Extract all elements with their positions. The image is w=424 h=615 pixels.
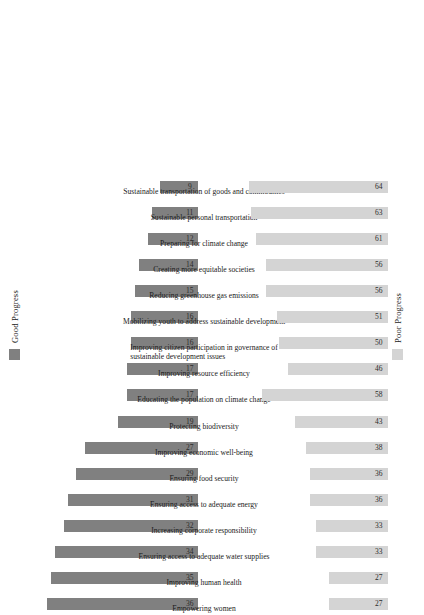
bar-value-label: 56: [375, 287, 383, 295]
good-progress-swatch: [9, 349, 20, 360]
bar-slot: 51: [232, 306, 388, 328]
bar-slot: 56: [232, 280, 388, 302]
bar-slot: 38: [232, 437, 388, 459]
bar-poor-7[interactable]: 43: [295, 416, 388, 428]
category-slot: Sustainable transportation of goods and …: [198, 176, 228, 198]
bar-poor-10[interactable]: 50: [279, 337, 388, 349]
bar-slot: 27: [232, 567, 388, 589]
category-slot: Ensuring access to adequate energy: [198, 489, 228, 511]
bar-value-label: 51: [375, 313, 383, 321]
category-slot: Reducing greenhouse gas emissions: [198, 280, 228, 302]
category-slot: Sustainable personal transportation: [198, 202, 228, 224]
bar-value-label: 56: [375, 261, 383, 269]
bar-slot: 43: [232, 411, 388, 433]
poor-progress-bar-row: 2727333336363843584650515656616364: [232, 0, 388, 615]
category-slot: Improving resource efficiency: [198, 359, 228, 381]
bar-value-label: 36: [375, 496, 383, 504]
bar-poor-4[interactable]: 36: [310, 494, 388, 506]
bar-slot: 33: [232, 541, 388, 563]
bar-value-label: 27: [375, 601, 383, 609]
bar-slot: 36: [232, 463, 388, 485]
bar-slot: 64: [232, 176, 388, 198]
category-slot: Creating more equitable societies: [198, 254, 228, 276]
bar-slot: 58: [232, 385, 388, 407]
bar-value-label: 46: [375, 366, 383, 374]
poor-progress-swatch: [392, 349, 403, 360]
bar-value-label: 61: [375, 235, 383, 243]
chart-figure: Good Progress 36353432312927191717161615…: [0, 0, 424, 615]
bar-poor-12[interactable]: 56: [266, 285, 388, 297]
bar-poor-6[interactable]: 38: [306, 442, 389, 454]
category-slot: Improving citizen participation in gover…: [198, 333, 228, 355]
bar-poor-11[interactable]: 51: [277, 311, 388, 323]
category-label-1: Improving human health: [166, 578, 241, 587]
bar-value-label: 38: [375, 444, 383, 452]
bar-poor-13[interactable]: 56: [266, 259, 388, 271]
category-label-line1: Improving human health: [166, 578, 241, 587]
poor-progress-panel: 2727333336363843584650515656616364: [232, 0, 388, 615]
category-label-0: Empowering women: [172, 604, 235, 613]
category-slot: Protecting biodiversity: [198, 411, 228, 433]
bar-value-label: 33: [375, 548, 383, 556]
bar-slot: 56: [232, 254, 388, 276]
bar-poor-0[interactable]: 27: [329, 598, 388, 610]
bar-poor-8[interactable]: 58: [262, 390, 388, 402]
bar-poor-3[interactable]: 33: [316, 520, 388, 532]
bar-poor-1[interactable]: 27: [329, 572, 388, 584]
bar-poor-15[interactable]: 63: [251, 207, 388, 219]
bar-slot: 46: [232, 359, 388, 381]
category-slot: Empowering women: [198, 594, 228, 615]
bar-value-label: 27: [375, 574, 383, 582]
bar-slot: 63: [232, 202, 388, 224]
legend-good-progress: Good Progress: [9, 290, 20, 360]
legend-good-progress-label: Good Progress: [10, 290, 20, 343]
category-slot: Improving economic well-being: [198, 437, 228, 459]
category-label-line1: Ensuring food security: [169, 474, 238, 483]
category-slot: Preparing for climate change: [198, 228, 228, 250]
category-slot: Ensuring access to adequate water suppli…: [198, 541, 228, 563]
category-label-7: Protecting biodiversity: [169, 422, 238, 431]
good-progress-bar-row: 363534323129271917171616151412119: [26, 0, 198, 615]
bar-slot: 36: [232, 489, 388, 511]
bar-value-label: 33: [375, 522, 383, 530]
category-slot: Mobilizing youth to address sustainable …: [198, 306, 228, 328]
category-slot: Ensuring food security: [198, 463, 228, 485]
category-slot: Improving human health: [198, 567, 228, 589]
bar-poor-2[interactable]: 33: [316, 546, 388, 558]
bar-slot: 27: [232, 594, 388, 615]
bar-poor-5[interactable]: 36: [310, 468, 388, 480]
bar-value-label: 63: [375, 209, 383, 217]
bar-poor-14[interactable]: 61: [256, 233, 388, 245]
bar-slot: 61: [232, 228, 388, 250]
category-label-5: Ensuring food security: [169, 474, 238, 483]
category-axis: Empowering womenImproving human healthEn…: [198, 0, 228, 615]
category-label-line1: Empowering women: [172, 604, 235, 613]
bar-value-label: 36: [375, 470, 383, 478]
good-progress-panel: 363534323129271917171616151412119: [26, 0, 198, 615]
category-label-line1: Protecting biodiversity: [169, 422, 238, 431]
bar-poor-16[interactable]: 64: [249, 181, 388, 193]
category-slot: Educating the population on climate chan…: [198, 385, 228, 407]
category-slot: Increasing corporate responsibility: [198, 515, 228, 537]
legend-poor-progress-label: Poor Progress: [393, 293, 403, 343]
bar-value-label: 43: [375, 418, 383, 426]
bar-value-label: 64: [375, 183, 383, 191]
bar-slot: 50: [232, 333, 388, 355]
legend-poor-progress: Poor Progress: [392, 293, 403, 360]
bar-poor-9[interactable]: 46: [288, 363, 388, 375]
bar-value-label: 58: [375, 392, 383, 400]
bar-slot: 33: [232, 515, 388, 537]
bar-value-label: 50: [375, 340, 383, 348]
rotated-chart-canvas: Good Progress 36353432312927191717161615…: [0, 0, 424, 615]
